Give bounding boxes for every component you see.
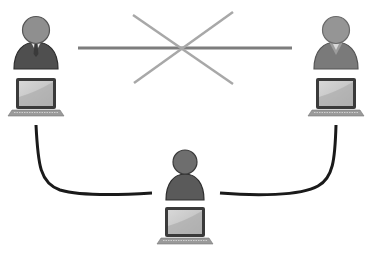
user-center-avatar (166, 150, 204, 200)
laptop-left-icon (8, 78, 64, 116)
connector-left (36, 125, 152, 195)
laptop-right-icon (308, 78, 364, 116)
user-left-avatar (14, 17, 58, 70)
laptop-center-icon (157, 207, 213, 244)
user-right-avatar (314, 17, 358, 70)
connector-right (220, 125, 336, 195)
network-diagram (0, 0, 377, 257)
